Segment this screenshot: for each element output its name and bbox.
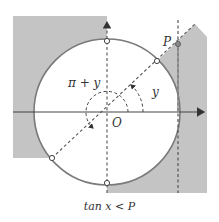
label-y: y bbox=[151, 85, 159, 99]
shaded-region-right bbox=[107, 24, 207, 193]
label-pi-plus-y: π + y bbox=[67, 76, 101, 90]
point-top bbox=[104, 38, 109, 43]
unit-circle-diagram: π + y y O P bbox=[0, 0, 219, 222]
angle-arc-y bbox=[131, 85, 143, 112]
label-origin: O bbox=[112, 116, 122, 130]
point-lower-left bbox=[49, 155, 54, 160]
caption: tan x < P bbox=[0, 200, 219, 213]
point-p bbox=[175, 41, 180, 46]
label-p: P bbox=[162, 35, 172, 49]
point-circle-intersect bbox=[154, 58, 159, 63]
point-bottom bbox=[104, 180, 109, 185]
